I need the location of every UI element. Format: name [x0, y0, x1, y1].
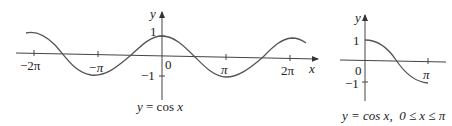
right-tick-label-one: 1: [353, 33, 360, 48]
tick-label-zero: 0: [165, 57, 172, 72]
right-x-axis: [340, 60, 446, 62]
tick-label-neg-pi: −π: [88, 60, 104, 75]
right-cosine-graph: 1 0 −1 π y y = cos x, 0 ≤ x ≤ π: [340, 10, 446, 123]
tick-label-neg-one: −1: [141, 68, 155, 83]
left-cosine-graph: −2π −π 0 π 2π 1 −1 y x y = cos x: [16, 6, 318, 114]
tick-label-one: 1: [150, 24, 157, 39]
x-axis-label: x: [308, 61, 315, 76]
tick-label-pi: π: [221, 62, 228, 77]
y-axis-label: y: [148, 6, 156, 21]
right-y-axis-label: y: [353, 10, 361, 25]
right-tick-label-pi: π: [423, 67, 430, 82]
tick-label-2pi: 2π: [281, 63, 295, 78]
left-caption: y = cos x: [135, 99, 183, 114]
tick-label-neg-2pi: −2π: [20, 58, 41, 73]
right-caption: y = cos x, 0 ≤ x ≤ π: [340, 108, 446, 123]
right-tick-label-neg-one: −1: [345, 76, 359, 91]
